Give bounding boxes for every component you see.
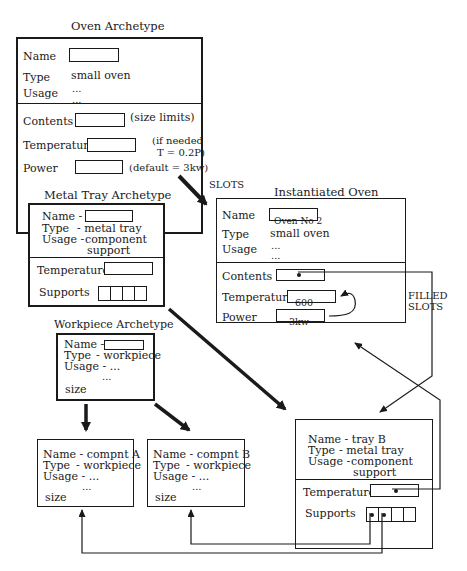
component-a-usage-value-2: ... (82, 481, 92, 493)
tray-b-frame: Name - tray B Type - metal tray Usage - … (295, 419, 433, 549)
instantiated-oven-frame: Name Oven No 2 Type small oven Usage ...… (216, 198, 406, 323)
component-a-frame: Name - compnt A Type - workpiece Usage -… (37, 439, 134, 507)
component-b-usage-value-2: ... (192, 481, 202, 493)
instantiated-oven-power-value: 3kw (277, 316, 309, 327)
oven-archetype-usage-label: Usage (23, 88, 58, 100)
instantiated-oven-power-slot: 3kw (276, 309, 325, 322)
pointer-dot (394, 489, 398, 493)
oven-archetype-contents-label: Contents (23, 116, 73, 128)
instantiated-oven-divider (217, 262, 405, 263)
instantiated-oven-contents-label: Contents (222, 271, 272, 283)
instantiated-oven-name-label: Name (222, 210, 255, 222)
metal-tray-archetype-frame: Name - Type - metal tray Usage - compone… (28, 203, 165, 307)
instantiated-oven-type-label: Type (222, 229, 249, 241)
tray-b-temperature-slot (370, 484, 419, 497)
tray-b-supports-cells (366, 507, 416, 522)
supports-cell (111, 287, 123, 300)
workpiece-size-label: size (65, 384, 86, 396)
component-b-frame: Name - compnt B Type - workpiece Usage -… (147, 439, 245, 507)
component-b-size-label: size (155, 492, 176, 504)
supports-cell (392, 508, 404, 521)
instantiated-oven-usage-value-2: ... (271, 250, 281, 262)
oven-archetype-name-label: Name (23, 51, 56, 63)
instantiated-oven-name-value: Oven No 2 (270, 216, 322, 226)
instantiation-arrow-compnt-b (155, 404, 189, 430)
pointer-dot (370, 513, 374, 517)
oven-archetype-temperature-slot (87, 138, 136, 152)
metal-tray-supports-cells (98, 286, 147, 301)
metal-tray-temperature-slot (104, 262, 153, 275)
workpiece-archetype-title: Workpiece Archetype (54, 318, 174, 331)
oven-archetype-usage-value-2: ... (72, 94, 82, 106)
metal-tray-usage-label: Usage - (42, 234, 84, 246)
metal-tray-supports-label: Supports (39, 287, 90, 299)
oven-archetype-temperature-note-1: (if needed (152, 135, 203, 147)
oven-archetype-temperature-label: Temperature (23, 140, 95, 152)
instantiated-oven-temperature-value: 600 (288, 297, 313, 308)
tray-b-divider (296, 479, 432, 480)
filled-slots-annotation-line2: SLOTS (408, 301, 443, 313)
metal-tray-usage-value-2: support (87, 245, 130, 257)
instantiated-oven-title: Instantiated Oven (274, 185, 378, 199)
tray-b-usage-value-2: support (353, 467, 396, 479)
instantiation-arrow-tray (169, 309, 285, 409)
oven-archetype-contents-slot (75, 113, 125, 127)
tray-b-temperature-label: Temperature (303, 487, 375, 499)
supports-cell (123, 287, 135, 300)
instantiated-oven-contents-slot (276, 269, 325, 281)
oven-archetype-power-label: Power (23, 163, 58, 175)
metal-tray-archetype-title: Metal Tray Archetype (44, 188, 171, 202)
pointer-dot (382, 513, 386, 517)
instantiated-oven-name-slot: Oven No 2 (269, 208, 318, 221)
metal-tray-temperature-label: Temperature (37, 265, 109, 277)
instantiated-oven-type-value: small oven (270, 228, 330, 240)
instantiated-oven-usage-label: Usage (222, 244, 257, 256)
oven-archetype-power-note: (default = 3kw) (129, 162, 208, 174)
supports-cell (99, 287, 111, 300)
instantiated-oven-temperature-slot: 600 (287, 290, 336, 303)
oven-archetype-type-value: small oven (71, 70, 131, 82)
metal-tray-name-slot (85, 210, 133, 222)
oven-archetype-temperature-note-2: T = 0.2P) (157, 147, 205, 159)
tray-b-supports-label: Supports (305, 508, 356, 520)
supports-cell (379, 508, 391, 521)
supports-cell (367, 508, 379, 521)
oven-archetype-name-slot (69, 48, 119, 62)
oven-archetype-type-label: Type (23, 72, 50, 84)
oven-archetype-power-slot (75, 160, 123, 174)
supports-cell (404, 508, 415, 521)
instantiated-oven-power-label: Power (222, 312, 257, 324)
metal-tray-divider (30, 257, 163, 258)
instantiated-oven-temperature-label: Temperature (222, 292, 294, 304)
oven-archetype-contents-note: (size limits) (130, 112, 195, 124)
workpiece-archetype-frame: Name - Type - workpiece Usage - ... ... … (56, 333, 155, 401)
tray-b-usage-label: Usage - (308, 456, 350, 468)
slots-annotation: SLOTS (209, 179, 244, 191)
oven-archetype-title: Oven Archetype (71, 19, 165, 33)
workpiece-usage-label: Usage - ... (64, 361, 120, 373)
workpiece-usage-value-2: ... (102, 371, 112, 383)
pointer-dot (297, 273, 301, 277)
component-a-size-label: size (45, 492, 66, 504)
oven-archetype-divider (18, 103, 201, 104)
supports-cell (135, 287, 146, 300)
